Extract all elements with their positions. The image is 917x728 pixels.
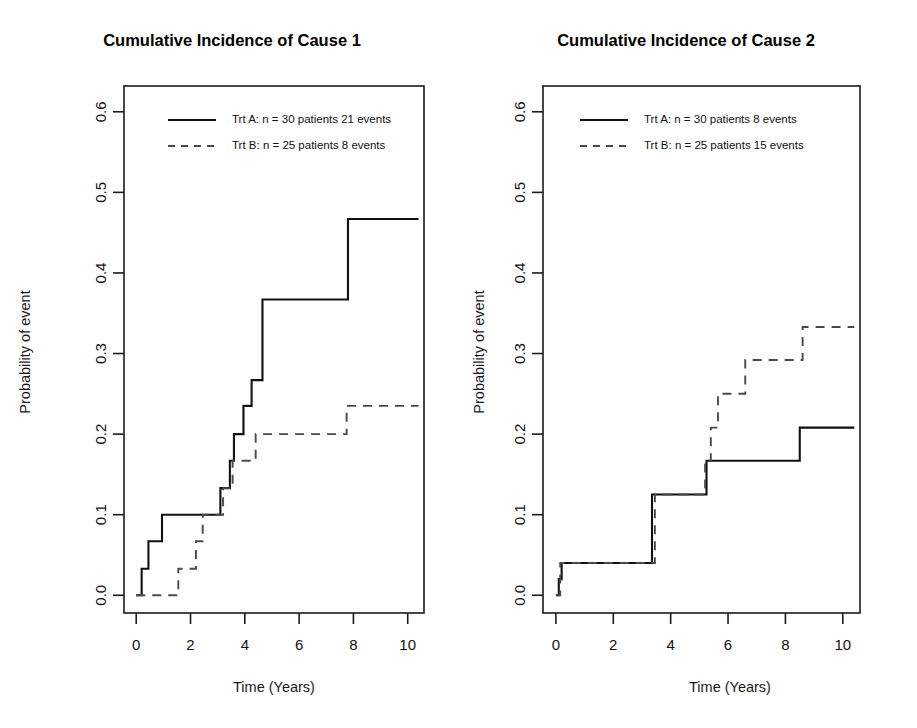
plot-frame-cause-1 — [124, 86, 424, 613]
legend-cause-2: Trt A: n = 30 patients 8 events Trt B: n… — [580, 113, 804, 151]
chart-panel-cause-2: Cumulative Incidence of Cause 2 Probabil… — [458, 0, 917, 728]
x-axis-title-cause-1: Time (Years) — [233, 679, 315, 695]
legend-label-trt-b-cause-1: Trt B: n = 25 patients 8 events — [232, 139, 386, 151]
x-tick-label: 8 — [349, 636, 357, 653]
chart-title-cause-1: Cumulative Incidence of Cause 1 — [103, 31, 361, 49]
y-axis-title-cause-2: Probability of event — [471, 290, 487, 413]
x-tick-label: 6 — [724, 636, 732, 653]
y-tick-label: 0.4 — [92, 263, 109, 284]
y-tick-label: 0.5 — [92, 182, 109, 203]
x-tick-label: 10 — [834, 636, 851, 653]
y-tick-label: 0.0 — [92, 585, 109, 606]
x-tick-label: 4 — [241, 636, 249, 653]
x-axis-title-cause-2: Time (Years) — [689, 679, 771, 695]
y-tick-label: 0.1 — [92, 504, 109, 525]
y-tick-label: 0.1 — [511, 504, 528, 525]
x-tick-label: 0 — [552, 636, 560, 653]
y-tick-label: 0.2 — [511, 424, 528, 445]
y-axis-ticks-cause-2: 0.00.10.20.30.40.50.6 — [511, 101, 543, 605]
chart-panel-cause-1: Cumulative Incidence of Cause 1 Probabil… — [0, 0, 460, 728]
x-tick-label: 8 — [781, 636, 789, 653]
plot-frame-cause-2 — [543, 86, 860, 613]
x-tick-label: 4 — [666, 636, 674, 653]
y-tick-label: 0.4 — [511, 263, 528, 284]
legend-label-trt-a-cause-2: Trt A: n = 30 patients 8 events — [644, 113, 797, 125]
curve-trt-a — [136, 219, 418, 595]
y-tick-label: 0.0 — [511, 585, 528, 606]
y-tick-label: 0.5 — [511, 182, 528, 203]
y-tick-label: 0.6 — [92, 101, 109, 122]
figure-container: Cumulative Incidence of Cause 1 Probabil… — [0, 0, 917, 728]
curve-trt-b — [136, 406, 418, 595]
x-tick-label: 2 — [609, 636, 617, 653]
curves-cause-2 — [556, 327, 854, 595]
chart-svg-cause-1: Cumulative Incidence of Cause 1 Probabil… — [0, 0, 460, 728]
x-axis-ticks-cause-1: 0246810 — [132, 613, 416, 653]
x-tick-label: 2 — [186, 636, 194, 653]
y-axis-title-cause-1: Probability of event — [17, 290, 33, 413]
y-axis-ticks-cause-1: 0.00.10.20.30.40.50.6 — [92, 101, 124, 605]
curve-trt-a — [556, 428, 854, 596]
y-tick-label: 0.3 — [511, 343, 528, 364]
y-tick-label: 0.3 — [92, 343, 109, 364]
chart-svg-cause-2: Cumulative Incidence of Cause 2 Probabil… — [458, 0, 917, 728]
y-tick-label: 0.2 — [92, 424, 109, 445]
legend-label-trt-a-cause-1: Trt A: n = 30 patients 21 events — [232, 113, 391, 125]
legend-cause-1: Trt A: n = 30 patients 21 events Trt B: … — [168, 113, 391, 151]
chart-title-cause-2: Cumulative Incidence of Cause 2 — [557, 31, 815, 49]
x-tick-label: 6 — [295, 636, 303, 653]
y-tick-label: 0.6 — [511, 101, 528, 122]
legend-label-trt-b-cause-2: Trt B: n = 25 patients 15 events — [644, 139, 804, 151]
curve-trt-b — [556, 327, 854, 595]
curves-cause-1 — [136, 219, 418, 595]
x-tick-label: 10 — [399, 636, 416, 653]
x-tick-label: 0 — [132, 636, 140, 653]
x-axis-ticks-cause-2: 0246810 — [552, 613, 851, 653]
